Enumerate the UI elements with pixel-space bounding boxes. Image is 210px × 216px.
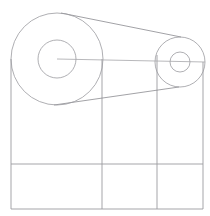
pulley-assembly-drawing [0,0,210,216]
center-distance-axis [57,59,205,62]
belt-upper-tangent [61,13,181,37]
base-frame-group [11,55,203,209]
